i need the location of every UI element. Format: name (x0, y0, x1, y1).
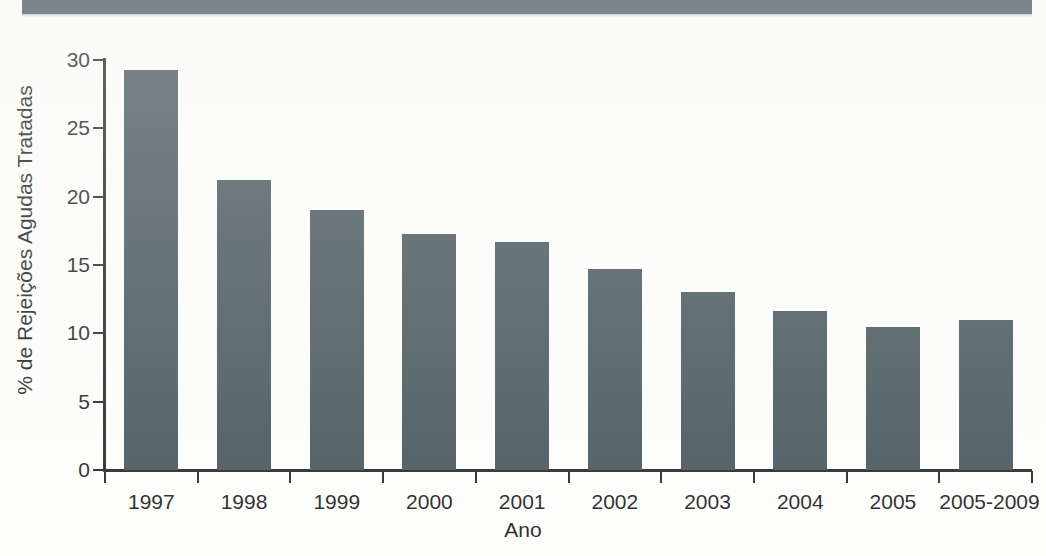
bar-1998 (217, 180, 271, 470)
x-tick-label: 2000 (383, 490, 476, 513)
y-tick-label: 25 (44, 117, 90, 138)
x-tick-label: 1998 (198, 490, 291, 513)
bar-2002 (588, 269, 642, 470)
y-tick-label: 30 (44, 49, 90, 70)
y-tick-label-wrap: 25 (34, 117, 90, 139)
x-tick-mark (846, 471, 848, 483)
x-tick-label: 2001 (476, 490, 569, 513)
x-tick-mark (197, 471, 199, 483)
x-tick-mark (660, 471, 662, 483)
bar-2003 (681, 292, 735, 470)
bar-2005 (866, 327, 920, 471)
x-tick-label: 2002 (569, 490, 662, 513)
y-tick-mark (93, 59, 104, 61)
y-tick-mark (93, 332, 104, 334)
y-tick-mark (93, 264, 104, 266)
y-tick-label-wrap: 15 (34, 254, 90, 276)
plot-region (105, 60, 1032, 470)
y-tick-label-wrap: 5 (34, 391, 90, 413)
bar-2004 (773, 311, 827, 470)
y-tick-label-wrap: 20 (34, 186, 90, 208)
y-tick-label: 10 (44, 322, 90, 343)
x-tick-mark (382, 471, 384, 483)
y-tick-label-wrap: 30 (34, 49, 90, 71)
y-tick-label: 0 (44, 459, 90, 480)
x-tick-mark (568, 471, 570, 483)
x-tick-label: 2005-2009 (939, 490, 1032, 513)
x-tick-mark (289, 471, 291, 483)
x-tick-mark (938, 471, 940, 483)
x-tick-label: 2003 (661, 490, 754, 513)
x-tick-label: 1999 (290, 490, 383, 513)
y-tick-label: 15 (44, 254, 90, 275)
chart-page: 051015202530 199719981999200020012002200… (0, 0, 1046, 556)
bar-2000 (402, 234, 456, 470)
y-tick-mark (93, 196, 104, 198)
x-tick-label: 2004 (754, 490, 847, 513)
x-tick-mark (753, 471, 755, 483)
bar-2001 (495, 242, 549, 470)
y-tick-label: 20 (44, 186, 90, 207)
x-tick-mark (475, 471, 477, 483)
y-tick-mark (93, 469, 104, 471)
bar-1997 (124, 70, 178, 470)
y-tick-label-wrap: 10 (34, 322, 90, 344)
x-tick-label: 2005 (847, 490, 940, 513)
x-tick-mark (1031, 471, 1033, 483)
x-tick-label: 1997 (105, 490, 198, 513)
y-tick-label-wrap: 0 (34, 459, 90, 481)
y-tick-mark (93, 127, 104, 129)
x-axis-title: Ano (0, 518, 1046, 542)
bar-2005-2009 (959, 320, 1013, 470)
y-axis-title: % de Rejeições Agudas Tratadas (13, 40, 37, 440)
bar-1999 (310, 210, 364, 470)
y-tick-mark (93, 401, 104, 403)
y-tick-label: 5 (44, 391, 90, 412)
x-tick-mark (104, 471, 106, 483)
bar-chart: 051015202530 199719981999200020012002200… (0, 0, 1046, 556)
